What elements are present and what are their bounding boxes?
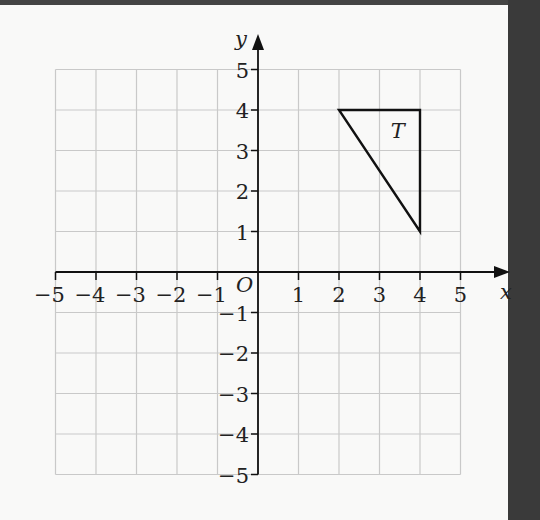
x-tick-label: 4 — [413, 283, 426, 307]
y-axis-label: y — [234, 27, 248, 51]
x-axis-arrow-icon — [494, 266, 510, 278]
x-tick-label: −5 — [34, 283, 65, 307]
y-tick-label: −5 — [218, 464, 249, 488]
y-tick-label: 5 — [236, 59, 249, 83]
y-tick-label: −1 — [218, 302, 249, 326]
x-tick-label: 5 — [454, 283, 467, 307]
x-axis-label: x — [500, 280, 512, 304]
coordinate-grid: −5−4−3−2−112345x54321−1−2−3−4−5yOT — [0, 0, 540, 520]
y-axis-arrow-icon — [252, 34, 264, 50]
x-tick-label: 1 — [292, 283, 305, 307]
x-tick-label: −2 — [156, 283, 187, 307]
y-tick-label: −3 — [218, 383, 249, 407]
y-tick-label: 4 — [236, 99, 249, 123]
y-tick-label: −4 — [218, 423, 249, 447]
x-tick-label: −4 — [75, 283, 106, 307]
x-tick-label: −3 — [115, 283, 146, 307]
y-tick-label: 2 — [236, 180, 249, 204]
y-tick-label: −2 — [218, 342, 249, 366]
shape-label: T — [391, 119, 407, 143]
x-tick-label: 3 — [373, 283, 386, 307]
x-tick-label: 2 — [332, 283, 345, 307]
y-tick-label: 1 — [236, 221, 249, 245]
y-tick-label: 3 — [236, 140, 249, 164]
origin-label: O — [236, 273, 253, 297]
